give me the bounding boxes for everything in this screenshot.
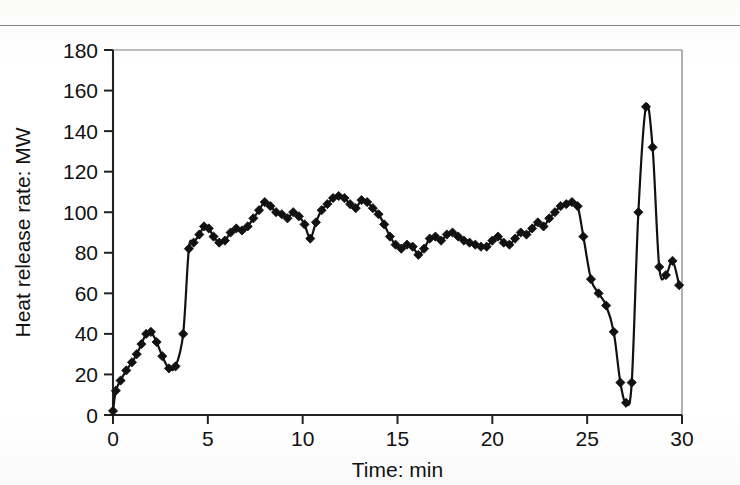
- y-tick-label: 60: [75, 282, 98, 305]
- data-point-marker: [634, 208, 643, 217]
- x-tick-label: 10: [291, 427, 314, 450]
- x-tick-label: 20: [481, 427, 504, 450]
- data-point-marker: [311, 218, 320, 227]
- data-point-marker: [616, 378, 625, 387]
- y-tick-label: 40: [75, 322, 98, 345]
- data-point-marker: [655, 262, 664, 271]
- data-point-marker: [179, 329, 188, 338]
- y-tick-label: 160: [63, 79, 98, 102]
- y-axis: 020406080100120140160180: [63, 39, 113, 427]
- x-axis-title: Time: min: [352, 458, 443, 481]
- data-point-marker: [152, 337, 161, 346]
- x-tick-label: 5: [202, 427, 214, 450]
- y-axis-title: Heat release rate: MW: [11, 127, 34, 337]
- data-point-marker: [116, 376, 125, 385]
- data-point-marker: [137, 339, 146, 348]
- y-tick-label: 80: [75, 241, 98, 264]
- series-line: [113, 104, 679, 411]
- chart-figure: 020406080100120140160180051015202530Time…: [0, 0, 740, 485]
- y-tick-label: 120: [63, 160, 98, 183]
- x-tick-label: 25: [575, 427, 598, 450]
- heat-release-rate-line-chart: 020406080100120140160180051015202530Time…: [0, 0, 740, 485]
- data-point-marker: [586, 275, 595, 284]
- series-1: [108, 102, 683, 415]
- x-tick-label: 15: [386, 427, 409, 450]
- data-point-marker: [648, 143, 657, 152]
- data-point-marker: [300, 220, 309, 229]
- x-axis: 051015202530: [107, 415, 694, 450]
- data-point-marker: [602, 301, 611, 310]
- y-tick-label: 100: [63, 201, 98, 224]
- x-tick-label: 0: [107, 427, 119, 450]
- y-tick-label: 140: [63, 120, 98, 143]
- data-point-marker: [306, 234, 315, 243]
- data-point-marker: [380, 220, 389, 229]
- data-point-marker: [627, 378, 636, 387]
- scanned-page: 020406080100120140160180051015202530Time…: [0, 0, 740, 485]
- y-tick-label: 180: [63, 39, 98, 62]
- x-tick-label: 30: [670, 427, 693, 450]
- data-point-marker: [158, 352, 167, 361]
- data-point-marker: [132, 350, 141, 359]
- data-point-marker: [579, 232, 588, 241]
- y-tick-label: 0: [86, 404, 98, 427]
- data-point-marker: [609, 327, 618, 336]
- y-tick-label: 20: [75, 363, 98, 386]
